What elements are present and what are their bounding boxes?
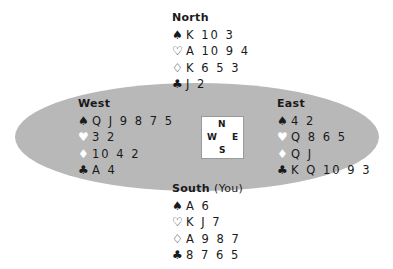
- compass-box: N W E S: [201, 116, 244, 159]
- heart-icon: ♡: [172, 43, 186, 60]
- heart-icon: ♥: [78, 129, 92, 146]
- east-diamonds: ♦Q J: [277, 146, 371, 163]
- hand-south-title: South (You): [172, 181, 243, 198]
- you-indicator: (You): [214, 182, 243, 195]
- club-icon: ♣: [277, 162, 291, 179]
- west-hearts: ♥3 2: [78, 129, 174, 146]
- compass-west: W: [207, 132, 217, 142]
- south-spades: ♠A 6: [172, 198, 243, 215]
- spade-icon: ♠: [172, 27, 186, 44]
- east-hearts: ♥Q 8 6 5: [277, 129, 371, 146]
- heart-icon: ♡: [172, 214, 186, 231]
- north-hearts: ♡A 10 9 4: [172, 43, 250, 60]
- hand-north-title: North: [172, 10, 250, 27]
- north-diamonds: ♢K 6 5 3: [172, 60, 250, 77]
- club-icon: ♣: [172, 76, 186, 93]
- east-clubs: ♣K Q 10 9 3: [277, 162, 371, 179]
- west-diamonds: ♦10 4 2: [78, 146, 174, 163]
- west-clubs: ♣A 4: [78, 162, 174, 179]
- hand-south: South (You) ♠A 6 ♡K J 7 ♢A 9 8 7 ♣8 7 6 …: [172, 181, 243, 264]
- compass-south: S: [219, 145, 225, 155]
- diamond-icon: ♦: [277, 146, 291, 163]
- hand-north: North ♠K 10 3 ♡A 10 9 4 ♢K 6 5 3 ♣J 2: [172, 10, 250, 93]
- hand-west-title: West: [78, 96, 174, 113]
- hand-east: East ♠4 2 ♥Q 8 6 5 ♦Q J ♣K Q 10 9 3: [277, 96, 371, 179]
- spade-icon: ♠: [78, 113, 92, 130]
- north-clubs: ♣J 2: [172, 76, 250, 93]
- spade-icon: ♠: [172, 198, 186, 215]
- compass-east: E: [232, 132, 238, 142]
- west-spades: ♠Q J 9 8 7 5: [78, 113, 174, 130]
- club-icon: ♣: [78, 162, 92, 179]
- south-hearts: ♡K J 7: [172, 214, 243, 231]
- south-clubs: ♣8 7 6 5: [172, 247, 243, 264]
- club-icon: ♣: [172, 247, 186, 264]
- south-diamonds: ♢A 9 8 7: [172, 231, 243, 248]
- heart-icon: ♥: [277, 129, 291, 146]
- north-spades: ♠K 10 3: [172, 27, 250, 44]
- hand-east-title: East: [277, 96, 371, 113]
- diamond-icon: ♦: [78, 146, 92, 163]
- diamond-icon: ♢: [172, 60, 186, 77]
- hand-west: West ♠Q J 9 8 7 5 ♥3 2 ♦10 4 2 ♣A 4: [78, 96, 174, 179]
- compass-north: N: [218, 119, 226, 129]
- spade-icon: ♠: [277, 113, 291, 130]
- diamond-icon: ♢: [172, 231, 186, 248]
- east-spades: ♠4 2: [277, 113, 371, 130]
